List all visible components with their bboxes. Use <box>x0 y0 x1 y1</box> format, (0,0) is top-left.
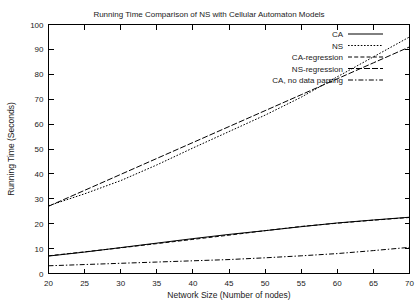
x-tick-label: 55 <box>297 279 306 288</box>
x-tick-label: 60 <box>333 279 342 288</box>
x-tick-label: 45 <box>225 279 234 288</box>
x-tick-label: 35 <box>152 279 161 288</box>
y-tick-label: 0 <box>39 270 44 279</box>
legend-label-2: NS <box>332 42 343 51</box>
legend-label-3: CA-regression <box>292 53 343 62</box>
y-tick-label: 30 <box>35 195 44 204</box>
y-tick-label: 100 <box>30 21 44 30</box>
legend-label-1: CA <box>332 30 344 39</box>
y-tick-label: 80 <box>35 70 44 79</box>
y-tick-label: 10 <box>35 245 44 254</box>
x-tick-label: 25 <box>80 279 89 288</box>
y-axis-title: Running Time (Seconds) <box>6 102 16 196</box>
y-tick-label: 90 <box>35 45 44 54</box>
chart-title: Running Time Comparison of NS with Cellu… <box>93 10 324 19</box>
y-tick-label: 50 <box>35 145 44 154</box>
legend-label-5: CA, no data parsing <box>272 76 343 85</box>
x-tick-label: 20 <box>44 279 53 288</box>
running-time-line-chart: Running Time Comparison of NS with Cellu… <box>0 0 418 304</box>
x-tick-label: 40 <box>188 279 197 288</box>
x-tick-label: 65 <box>369 279 378 288</box>
legend-label-4: NS-regression <box>292 65 343 74</box>
y-tick-label: 40 <box>35 170 44 179</box>
chart-container: Running Time Comparison of NS with Cellu… <box>0 0 418 304</box>
y-tick-label: 60 <box>35 120 44 129</box>
x-axis-title: Network Size (Number of nodes) <box>167 290 290 300</box>
x-tick-label: 70 <box>405 279 414 288</box>
x-tick-label: 30 <box>116 279 125 288</box>
y-tick-label: 70 <box>35 95 44 104</box>
y-tick-label: 20 <box>35 220 44 229</box>
x-tick-label: 50 <box>261 279 270 288</box>
